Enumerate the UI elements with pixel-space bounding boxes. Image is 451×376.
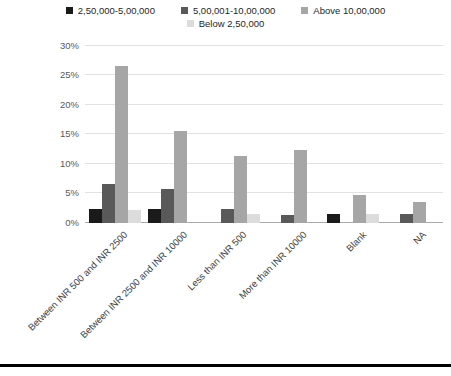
plot-area: 0%5%10%15%20%25%30%Between INR 500 and I… xyxy=(0,0,451,376)
y-axis-tick-label: 10% xyxy=(37,158,79,169)
bar xyxy=(221,209,234,223)
bar-group xyxy=(85,45,145,223)
bar xyxy=(115,66,128,223)
bar xyxy=(234,156,247,223)
chart-canvas: 2,50,000-5,00,0005,00,001-10,00,000Above… xyxy=(0,0,451,376)
bottom-rule xyxy=(0,364,451,367)
x-axis-category-label: More than INR 10000 xyxy=(237,229,309,301)
bar xyxy=(161,189,174,222)
bar xyxy=(128,210,141,223)
bar xyxy=(281,215,294,223)
bar xyxy=(148,209,161,223)
y-axis-tick-label: 20% xyxy=(37,99,79,110)
bar xyxy=(294,150,307,223)
bar xyxy=(413,202,426,223)
bar xyxy=(327,214,340,222)
bar xyxy=(366,214,379,222)
bar-group xyxy=(324,45,384,223)
x-axis-category-label: Blank xyxy=(344,229,369,254)
y-axis-tick-label: 30% xyxy=(37,40,79,51)
x-axis-category-label: NA xyxy=(411,229,428,246)
bar xyxy=(89,209,102,223)
bar-group xyxy=(204,45,264,223)
bar-group xyxy=(264,45,324,223)
bar xyxy=(174,131,187,223)
y-axis-tick-label: 25% xyxy=(37,69,79,80)
bar-group xyxy=(383,45,443,223)
bar xyxy=(247,214,260,222)
bar xyxy=(102,184,115,223)
bar xyxy=(400,214,413,222)
y-axis-tick-label: 5% xyxy=(37,187,79,198)
y-axis-tick-label: 15% xyxy=(37,128,79,139)
bar xyxy=(353,195,366,222)
x-axis-category-label: Between INR 2500 and INR 10000 xyxy=(78,229,189,340)
x-axis-category-label: Between INR 500 and INR 2500 xyxy=(26,229,130,333)
bar-group xyxy=(145,45,205,223)
y-axis-tick-label: 0% xyxy=(37,217,79,228)
x-axis-category-label: Less than INR 500 xyxy=(186,229,249,292)
